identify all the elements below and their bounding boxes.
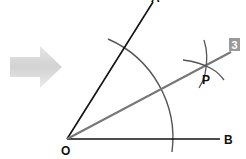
step-badge-number: 3 [232,39,238,51]
label-a: A [151,0,160,5]
label-b: B [224,133,233,147]
arc-from-o [108,39,173,152]
label-p: P [202,73,210,87]
bisector-diagram: A O B P 3 [0,0,246,159]
ray-oa [67,2,153,139]
next-arrow-icon [10,46,62,88]
label-o: O [61,144,70,158]
